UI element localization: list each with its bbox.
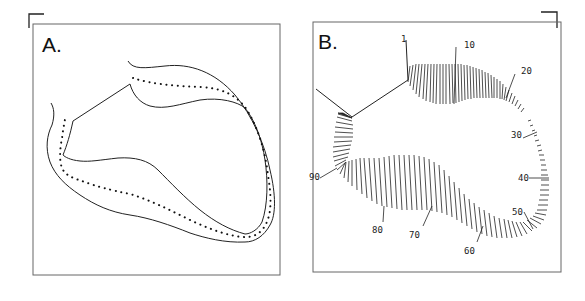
centerline-dots [60,78,270,237]
chords-upper-wall [408,64,524,112]
panel-a-frame [33,24,280,275]
panel-b-frame [313,22,561,272]
figure-canvas: A. B. [0,0,585,301]
chord-label-1: 1 [401,34,406,44]
panel-a: A. [33,24,280,275]
chords-septal-wall [333,113,353,161]
chord-label-10: 10 [464,40,475,50]
chord-label-90: 90 [309,172,320,182]
outer-contour [47,61,274,242]
crop-mark-top-left [29,14,44,28]
chord-label-50: 50 [512,207,523,217]
chords-lower-wall [335,155,527,238]
chord-label-70: 70 [409,230,420,240]
panel-b: B. [309,22,561,272]
chord-label-60: 60 [464,246,475,256]
chord-label-30: 30 [511,130,522,140]
chord-labels: 1 10 20 30 40 50 60 70 80 90 [309,34,532,256]
chord-label-40: 40 [518,173,529,183]
chord-label-20: 20 [521,66,532,76]
inner-contour [63,84,267,234]
panel-b-label: B. [318,30,338,53]
panel-a-label: A. [42,33,62,56]
crop-mark-top-right [541,12,557,28]
chord-label-80: 80 [372,225,383,235]
